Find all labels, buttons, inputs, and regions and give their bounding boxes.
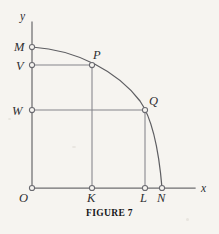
point-label-L: L [139,191,147,205]
point-label-V: V [16,59,25,73]
point-marker-Q [142,107,147,112]
point-marker-M [29,44,34,49]
point-marker-W [29,107,34,112]
point-marker-O [29,185,34,190]
paper-speck [8,118,11,120]
y-axis-label: y [19,10,26,23]
point-marker-V [29,62,34,67]
point-label-Q: Q [149,94,158,108]
figure-container: O M V W P Q K L N y x FIGURE 7 [0,0,219,234]
point-label-P: P [92,48,101,62]
point-marker-L [142,185,147,190]
point-marker-K [89,185,94,190]
point-marker-N [159,185,164,190]
point-label-K: K [86,191,96,205]
point-label-M: M [13,40,25,54]
point-label-O: O [19,191,28,205]
point-label-N: N [156,191,166,205]
point-label-W: W [12,104,24,118]
paper-speck [186,218,189,221]
paper-speck [72,146,76,148]
arc-m-p-q-n [32,47,162,188]
x-axis-label: x [200,182,207,194]
figure-caption: FIGURE 7 [0,208,219,218]
point-marker-P [89,62,94,67]
geometry-diagram: O M V W P Q K L N y x [0,0,219,234]
